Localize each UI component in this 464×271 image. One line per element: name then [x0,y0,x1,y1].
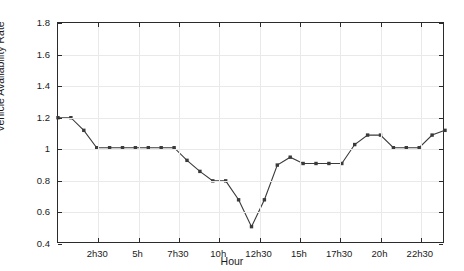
y-axis-tick-label: 1 [0,143,50,154]
data-point-marker [198,170,201,173]
y-gridline [58,149,443,150]
x-axis-tick [98,238,99,242]
x-axis-tick-label: 7h30 [167,248,188,259]
x-axis-title: Hour [0,255,464,267]
y-gridline [58,55,443,56]
y-axis-tick [439,149,443,150]
x-axis-tick-label: 20h [372,248,388,259]
y-axis-tick [58,55,62,56]
x-axis-tick-label: 12h30 [245,248,271,259]
data-point-marker [289,155,292,158]
y-axis-tick-label: 1.8 [0,17,50,28]
x-axis-tick [179,238,180,242]
x-axis-tick [98,23,99,27]
data-point-marker [430,133,433,136]
y-axis-tick [58,212,62,213]
x-axis-tick [340,23,341,27]
y-axis-tick [58,181,62,182]
x-gridline [340,23,341,242]
x-axis-tick-label: 17h30 [326,248,352,259]
y-gridline [58,212,443,213]
x-axis-tick-label: 15h [291,248,307,259]
data-point-marker [237,198,240,201]
data-point-marker [263,198,266,201]
y-axis-tick [58,244,62,245]
y-axis-tick [439,244,443,245]
data-point-marker [443,129,446,132]
x-axis-tick [260,238,261,242]
y-axis-tick [58,149,62,150]
y-axis-tick [58,86,62,87]
x-axis-tick [300,238,301,242]
x-axis-tick [300,23,301,27]
y-axis-tick [439,118,443,119]
x-axis-tick-label: 22h30 [407,248,433,259]
y-axis-tick [58,118,62,119]
data-point-marker [314,162,317,165]
x-gridline [219,23,220,242]
data-point-marker [366,133,369,136]
x-axis-tick [340,238,341,242]
y-axis-tick [58,23,62,24]
y-axis-tick [439,212,443,213]
x-axis-tick [421,238,422,242]
x-gridline [381,23,382,242]
data-point-marker [327,162,330,165]
y-axis-tick-label: 1.2 [0,111,50,122]
data-point-marker [301,162,304,165]
data-point-marker [82,129,85,132]
x-axis-tick [179,23,180,27]
data-point-marker [250,225,253,228]
data-point-marker [185,159,188,162]
x-axis-tick-label: 5h [132,248,143,259]
y-axis-tick-label: 0.4 [0,238,50,249]
y-gridline [58,118,443,119]
y-axis-tick [439,55,443,56]
x-axis-tick [219,23,220,27]
data-point-marker [276,163,279,166]
series-polyline [58,118,445,227]
x-gridline [300,23,301,242]
x-gridline [179,23,180,242]
x-axis-tick [260,23,261,27]
chart-figure: Vehicle Availability Rate Hour 0.40.60.8… [0,0,464,271]
series-line [58,23,445,244]
x-gridline [421,23,422,242]
x-gridline [260,23,261,242]
x-gridline [98,23,99,242]
y-axis-tick [439,86,443,87]
y-gridline [58,181,443,182]
y-axis-tick-label: 1.4 [0,80,50,91]
x-gridline [139,23,140,242]
x-axis-tick [139,238,140,242]
data-point-marker [353,143,356,146]
x-axis-tick-label: 2h30 [87,248,108,259]
x-axis-tick [421,23,422,27]
y-axis-tick [439,23,443,24]
y-axis-tick-label: 0.8 [0,174,50,185]
x-axis-tick [381,23,382,27]
y-axis-tick-label: 0.6 [0,206,50,217]
y-axis-tick-label: 1.6 [0,48,50,59]
x-axis-tick [139,23,140,27]
y-gridline [58,86,443,87]
x-axis-tick [381,238,382,242]
x-axis-tick [219,238,220,242]
y-axis-tick [439,181,443,182]
x-axis-tick-label: 10h [210,248,226,259]
plot-area [57,22,444,243]
